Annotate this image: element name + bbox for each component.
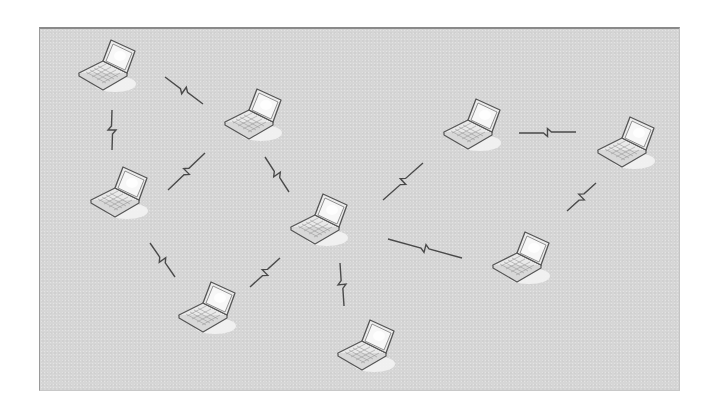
laptop-icon	[287, 191, 351, 249]
wireless-bolt-icon	[383, 163, 423, 200]
wireless-bolt-icon	[338, 263, 346, 306]
laptop-icon	[594, 114, 658, 172]
laptop-node-l9	[334, 317, 398, 375]
wireless-link-l2-l4	[265, 157, 289, 192]
wireless-link-l1-l2	[165, 77, 203, 104]
laptop-icon	[175, 279, 239, 337]
wireless-bolt-icon	[168, 153, 205, 190]
wireless-bolt-icon	[150, 243, 175, 277]
wireless-link-l5-l6	[519, 129, 576, 137]
laptop-icon	[334, 317, 398, 375]
laptop-node-l3	[87, 164, 151, 222]
laptop-node-l6	[594, 114, 658, 172]
laptop-icon	[489, 229, 553, 287]
wireless-link-l4-l8	[250, 258, 280, 287]
wireless-bolt-icon	[165, 77, 203, 104]
wireless-bolt-icon	[108, 110, 116, 150]
laptop-node-l5	[440, 96, 504, 154]
laptop-icon	[440, 96, 504, 154]
wireless-link-l4-l7	[388, 239, 462, 258]
wireless-link-l2-l3	[168, 153, 205, 190]
wireless-link-l6-l7	[567, 183, 596, 211]
wireless-link-l4-l9	[338, 263, 346, 306]
laptop-node-l2	[221, 86, 285, 144]
diagram-canvas	[0, 0, 710, 406]
laptop-icon	[75, 37, 139, 95]
wireless-bolt-icon	[265, 157, 289, 192]
laptop-icon	[221, 86, 285, 144]
laptop-icon	[87, 164, 151, 222]
wireless-bolt-icon	[519, 129, 576, 137]
laptop-node-l7	[489, 229, 553, 287]
wireless-link-l1-l3	[108, 110, 116, 150]
wireless-link-l4-l5	[383, 163, 423, 200]
wireless-link-l3-l8	[150, 243, 175, 277]
laptop-node-l4	[287, 191, 351, 249]
wireless-bolt-icon	[388, 239, 462, 258]
laptop-node-l8	[175, 279, 239, 337]
wireless-bolt-icon	[567, 183, 596, 211]
laptop-node-l1	[75, 37, 139, 95]
wireless-bolt-icon	[250, 258, 280, 287]
